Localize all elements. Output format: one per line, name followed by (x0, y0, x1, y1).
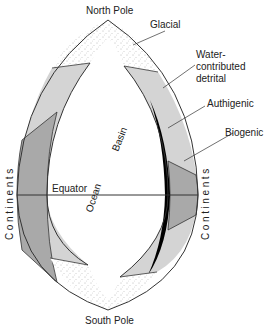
biogenic-label: Biogenic (225, 127, 263, 138)
water-detrital-label-line3: detrital (196, 73, 226, 84)
equator-label: Equator (52, 183, 88, 194)
continents-label-right: Continents (200, 166, 211, 240)
basin-label: Basin (110, 125, 130, 152)
glacial-label: Glacial (150, 19, 181, 30)
glacial-zone-north (52, 20, 158, 72)
water-detrital-label-line2: contributed (196, 61, 245, 72)
leader-detrital (163, 65, 195, 88)
south-pole-label: South Pole (85, 315, 134, 326)
sediment-distribution-diagram: North Pole South Pole Glacial Water- con… (0, 0, 271, 329)
north-pole-label: North Pole (86, 5, 134, 16)
leader-glacial (133, 31, 165, 45)
authigenic-label: Authigenic (207, 98, 254, 109)
biogenic-zone-left (17, 112, 57, 282)
water-detrital-label-line1: Water- (196, 49, 226, 60)
continents-label-left: Continents (4, 166, 15, 240)
